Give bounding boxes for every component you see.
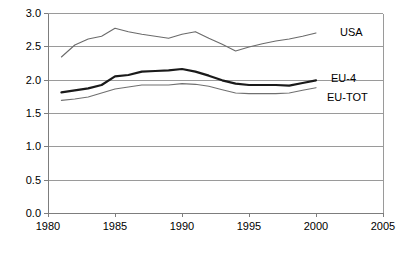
series-labels-group: USAEU-4EU-TOT [327, 26, 368, 103]
series-label-eu-tot: EU-TOT [327, 91, 368, 103]
y-axis-label-0.0: 0.0 [26, 207, 41, 219]
x-axis-label-1995: 1995 [237, 220, 261, 232]
x-axis-label-1980: 1980 [36, 220, 60, 232]
y-axis-label-2.0: 2.0 [26, 74, 41, 86]
x-axis-label-1990: 1990 [170, 220, 194, 232]
y-axis-label-2.5: 2.5 [26, 40, 41, 52]
series-label-usa: USA [340, 26, 363, 38]
tick-marks-group [44, 14, 384, 218]
y-axis-label-3.0: 3.0 [26, 7, 41, 19]
data-series-group [61, 28, 316, 100]
y-axis-label-1.5: 1.5 [26, 107, 41, 119]
line-chart: 0.00.51.01.52.02.53.0 198019851990199520… [0, 0, 406, 255]
y-axis-tick-labels: 0.00.51.01.52.02.53.0 [26, 7, 41, 219]
series-line-usa [61, 28, 316, 57]
y-axis-label-0.5: 0.5 [26, 174, 41, 186]
x-axis-tick-labels: 198019851990199520002005 [36, 220, 395, 232]
x-axis-label-2005: 2005 [371, 220, 395, 232]
y-axis-label-1.0: 1.0 [26, 140, 41, 152]
chart-container: 0.00.51.01.52.02.53.0 198019851990199520… [0, 0, 406, 255]
x-axis-label-1985: 1985 [103, 220, 127, 232]
x-axis-label-2000: 2000 [304, 220, 328, 232]
series-label-eu-4: EU-4 [331, 72, 356, 84]
